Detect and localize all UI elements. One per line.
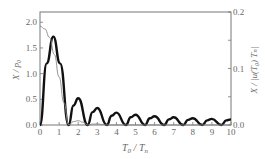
y-tick-label-right: 0.2 [233,7,244,17]
series-thin-line [40,26,231,125]
x-tick-label: 6 [152,127,157,137]
plot-frame [40,12,231,125]
x-tick-label: 4 [114,127,119,137]
series-thick-line [40,37,231,125]
y-tick-label-right: 0.0 [233,120,245,130]
x-tick-label: 5 [133,127,138,137]
axis-ticks: 0123456789100.00.51.01.52.00.00.10.2 [26,7,245,137]
y-tick-label-left: 1.5 [26,43,38,53]
y-tick-label-left: 2.0 [26,17,38,27]
x-tick-label: 0 [38,127,43,137]
x-tick-label: 8 [191,127,196,137]
x-tick-label: 9 [210,127,215,137]
y-tick-label-left: 0.0 [26,120,38,130]
chart: 0123456789100.00.51.01.52.00.00.10.2 X /… [0,0,265,159]
y-tick-label-left: 0.5 [26,94,38,104]
x-axis-label: T0 / Tn [122,142,148,155]
data-series [40,26,231,125]
y-tick-label-left: 1.0 [26,69,38,79]
y-axis-label-right: X / |u(T₀) Tₙ| [249,47,259,95]
plot-border [40,12,231,125]
x-tick-label: 1 [57,127,62,137]
x-tick-label: 7 [171,127,176,137]
y-axis-label-left: X / p₀ [11,60,21,81]
x-tick-label: 2 [76,127,81,137]
y-tick-label-right: 0.1 [233,64,244,74]
x-tick-label: 3 [95,127,100,137]
